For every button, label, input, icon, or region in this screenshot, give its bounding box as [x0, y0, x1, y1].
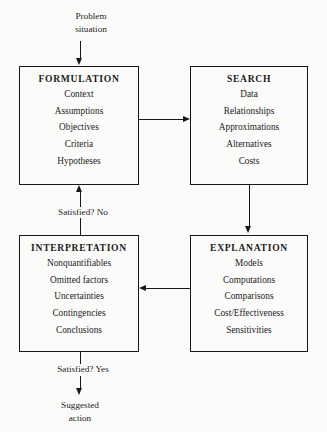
box-formulation-title: FORMULATION [38, 74, 119, 84]
exit-label-line2: action [50, 412, 110, 425]
box-interpretation-item-1: Nonquantifiables [47, 259, 111, 268]
box-search-item-1: Data [240, 90, 258, 99]
connector-interpretation-to-formulation-arrowhead [76, 185, 82, 192]
connector-formulation-to-search-arrowhead [183, 116, 190, 122]
box-formulation-item-5: Hypotheses [57, 157, 100, 166]
box-formulation-item-3: Objectives [59, 123, 99, 132]
connector-exit-arrowhead [76, 388, 82, 395]
entry-label-line1: Problem [61, 10, 121, 23]
box-explanation-item-4: Cost/Effectiveness [214, 309, 284, 318]
loop-label-no: Satisfied? No [45, 207, 121, 218]
box-interpretation-item-2: Omitted factors [50, 276, 108, 285]
box-interpretation-item-5: Conclusions [56, 326, 102, 335]
box-search-title: SEARCH [227, 74, 271, 84]
box-interpretation-title: INTERPRETATION [31, 243, 127, 253]
exit-label: Suggested action [50, 399, 110, 424]
connector-formulation-to-search-line [139, 119, 183, 121]
box-interpretation-item-4: Contingencies [52, 309, 105, 318]
box-search: SEARCH Data Relationships Approximations… [190, 66, 308, 185]
box-search-item-4: Alternatives [226, 140, 271, 149]
connector-search-to-explanation-line [249, 185, 251, 228]
box-explanation-title: EXPLANATION [210, 243, 288, 253]
box-search-item-3: Approximations [219, 123, 279, 132]
connector-entry-arrowhead [76, 58, 82, 65]
entry-label: Problem situation [61, 10, 121, 35]
box-formulation-item-2: Assumptions [55, 107, 104, 116]
box-explanation-item-2: Computations [223, 276, 275, 285]
box-formulation-item-4: Criteria [65, 140, 93, 149]
loop-label-yes: Satisfied? Yes [44, 364, 122, 375]
box-explanation: EXPLANATION Models Computations Comparis… [190, 235, 308, 352]
box-interpretation-item-3: Uncertainties [54, 292, 104, 301]
connector-explanation-to-interpretation-line [146, 288, 190, 290]
entry-label-line2: situation [61, 23, 121, 36]
exit-label-line1: Suggested [50, 399, 110, 412]
box-explanation-item-1: Models [235, 259, 263, 268]
box-search-item-5: Costs [239, 157, 260, 166]
box-formulation-item-1: Context [64, 90, 93, 99]
box-explanation-item-3: Comparisons [224, 292, 273, 301]
box-interpretation: INTERPRETATION Nonquantifiables Omitted … [19, 235, 139, 352]
connector-search-to-explanation-arrowhead [245, 226, 251, 233]
connector-explanation-to-interpretation-arrowhead [139, 285, 146, 291]
box-explanation-item-5: Sensitivities [226, 326, 271, 335]
box-search-item-2: Relationships [224, 107, 275, 116]
box-formulation: FORMULATION Context Assumptions Objectiv… [19, 66, 139, 185]
diagram-canvas: Problem situation FORMULATION Context As… [0, 0, 327, 432]
